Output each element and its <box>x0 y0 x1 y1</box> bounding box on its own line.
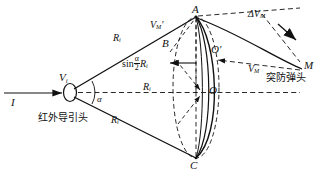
half-angle-arc-lower <box>92 93 95 105</box>
label-missile-velocity: VM <box>248 64 259 75</box>
seeker-velocity-subscript: i <box>66 77 68 84</box>
caption-penetration-warhead: 突防弹头 <box>266 73 306 83</box>
label-missile-velocity-prime: VM′ <box>150 20 163 31</box>
point-a-marker <box>195 16 198 19</box>
diagram-vector-layer <box>0 0 328 179</box>
label-delta-velocity: ΔVM <box>248 9 265 20</box>
radius-subscript: i <box>146 62 148 69</box>
cone-upper-generatrix <box>74 17 196 89</box>
label-range-axis: Ri <box>143 82 151 93</box>
delta-vm-subscript: M <box>260 12 265 19</box>
vm-prime-mark: ′ <box>161 19 163 30</box>
range-lower-subscript: i <box>117 118 119 125</box>
label-range-lower: Ri <box>111 115 119 126</box>
caption-infrared-seeker: 红外导引头 <box>38 113 88 123</box>
delta-vm-symbol: ΔV <box>248 8 260 19</box>
cone-lower-generatrix <box>74 97 196 158</box>
seeker-head-icon <box>64 84 77 102</box>
label-range-upper: Ri <box>113 33 121 44</box>
spoke-lower-to-o <box>178 96 200 124</box>
vm-subscript: M <box>254 67 259 74</box>
seeker-velocity-symbol: V <box>59 71 66 83</box>
label-half-angle: α <box>97 95 102 104</box>
label-point-c: C <box>190 160 197 171</box>
cap-arc-innermost <box>196 17 202 158</box>
sin-operator: sin <box>122 58 134 69</box>
diagram-canvas: I Vi 红外导引头 α Ri Ri Ri sinα2Ri A B C O O′… <box>0 0 328 179</box>
label-point-o: O <box>209 85 217 96</box>
label-point-m: M <box>304 60 313 71</box>
range-upper-subscript: i <box>119 36 121 43</box>
label-point-o-prime: O′ <box>211 44 221 55</box>
label-base-radius-expression: sinα2Ri <box>122 55 148 72</box>
label-incident-ray: I <box>11 97 15 108</box>
label-point-a: A <box>192 4 199 15</box>
half-angle-arc <box>92 81 95 93</box>
label-point-b: B <box>162 38 169 49</box>
delta-v-arrow <box>278 24 296 40</box>
label-seeker-velocity: Vi <box>59 72 68 84</box>
range-axis-subscript: i <box>149 85 151 92</box>
